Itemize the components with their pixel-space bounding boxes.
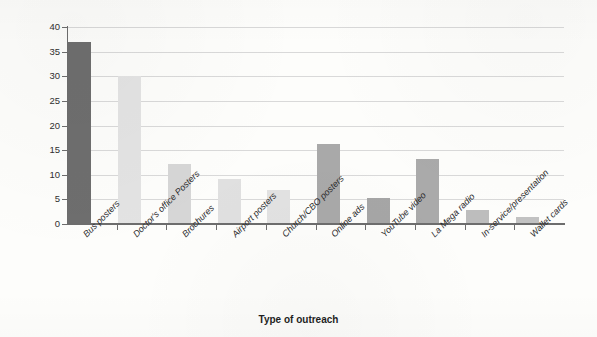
x-tick-mark xyxy=(415,225,416,230)
gridline xyxy=(67,76,564,77)
y-tick-label: 40 xyxy=(38,22,60,32)
x-axis-title: Type of outreach xyxy=(0,314,597,325)
y-tick-label: 10 xyxy=(38,170,60,180)
gridline xyxy=(67,199,564,200)
y-tick-label: 25 xyxy=(38,96,60,106)
bar-bus-posters xyxy=(68,42,91,224)
bar-brochures xyxy=(168,164,191,224)
bar-doctor-s-office-posters xyxy=(118,76,141,224)
y-axis-line xyxy=(67,26,68,225)
x-tick-mark xyxy=(216,225,217,230)
bar-church-cbo-posters xyxy=(267,190,290,225)
y-tick-label: 30 xyxy=(38,71,60,81)
bar-airport-posters xyxy=(218,179,241,224)
gridline xyxy=(67,52,564,53)
x-axis-line xyxy=(67,223,565,225)
chart-figure: 0510152025303540 Bus postersDoctor's off… xyxy=(0,0,597,337)
gridline xyxy=(67,101,564,102)
y-tick-label: 5 xyxy=(38,194,60,204)
x-tick-mark xyxy=(514,225,515,230)
bar-in-service-presentation xyxy=(466,210,489,224)
gridline xyxy=(67,175,564,176)
y-tick-label: 20 xyxy=(38,121,60,131)
x-tick-mark xyxy=(266,225,267,230)
plot-area xyxy=(67,27,564,224)
bar-online-ads xyxy=(317,144,340,224)
x-tick-mark xyxy=(365,225,366,230)
x-tick-mark xyxy=(465,225,466,230)
gridline xyxy=(67,27,564,28)
x-tick-mark xyxy=(166,225,167,230)
x-tick-mark xyxy=(316,225,317,230)
gridline xyxy=(67,126,564,127)
gridline xyxy=(67,150,564,151)
bar-la-mega-radio xyxy=(416,159,439,224)
y-tick-label: 0 xyxy=(38,219,60,229)
y-tick-label: 35 xyxy=(38,47,60,57)
y-tick-label: 15 xyxy=(38,145,60,155)
bar-youtube-video xyxy=(367,198,390,224)
x-tick-mark xyxy=(117,225,118,230)
